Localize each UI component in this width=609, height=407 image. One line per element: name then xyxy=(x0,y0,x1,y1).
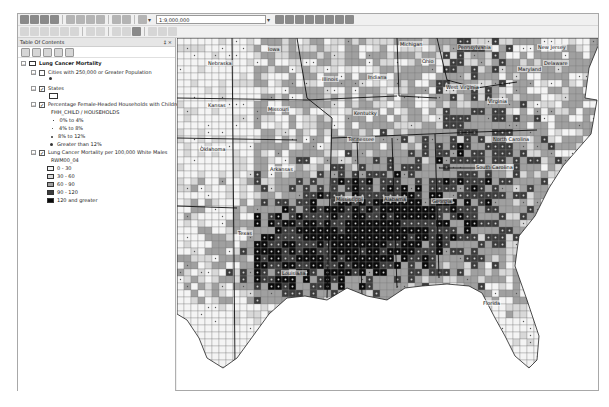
toolbar-separator xyxy=(134,15,135,24)
copy-icon[interactable] xyxy=(76,15,85,24)
clear-selection-icon[interactable] xyxy=(122,27,131,36)
pin-icon[interactable]: ‡ xyxy=(164,39,167,45)
checkbox-unchecked[interactable] xyxy=(39,70,45,76)
state-label: Louisiana xyxy=(281,270,307,276)
options-icon[interactable] xyxy=(65,48,74,57)
point-symbol-icon xyxy=(53,120,54,121)
legend-label: Greater than 12% xyxy=(57,141,102,148)
list-by-selection-icon[interactable] xyxy=(54,48,63,57)
collapse-icon[interactable]: − xyxy=(31,150,36,155)
catalog-window-icon[interactable] xyxy=(295,15,304,24)
point-symbol-icon xyxy=(52,128,53,129)
forward-extent-icon[interactable] xyxy=(96,27,105,36)
fixed-zoom-out-icon[interactable] xyxy=(70,27,79,36)
state-label: South Carolina xyxy=(475,164,514,170)
back-extent-icon[interactable] xyxy=(86,27,95,36)
standard-toolbar: ▾1:9,000,000▾ xyxy=(18,14,598,26)
model-builder-icon[interactable] xyxy=(335,15,344,24)
zoom-out-icon[interactable] xyxy=(30,27,39,36)
pan-icon[interactable] xyxy=(40,27,49,36)
measure-icon[interactable] xyxy=(168,27,177,36)
state-label: Kansas xyxy=(207,102,227,108)
toc-window-icon[interactable] xyxy=(285,15,294,24)
checkbox-checked[interactable]: ✓ xyxy=(39,150,45,156)
legend-item xyxy=(49,77,52,80)
find-icon[interactable] xyxy=(158,27,167,36)
legend-field-name: FHH_CHILD / HOUSEHOLDS xyxy=(51,109,119,116)
scale-dropdown-icon[interactable]: ▾ xyxy=(267,16,270,23)
list-by-visibility-icon[interactable] xyxy=(43,48,52,57)
toc-layer[interactable]: −✓Lung Cancer Mortality per 100,000 Whit… xyxy=(31,149,167,156)
legend-item: 0% to 4% xyxy=(49,117,84,124)
fixed-zoom-in-icon[interactable] xyxy=(60,27,69,36)
list-by-source-icon[interactable] xyxy=(32,48,41,57)
state-label: Delaware xyxy=(543,60,569,66)
open-icon[interactable] xyxy=(30,15,39,24)
legend-swatch xyxy=(47,182,54,187)
state-label: Alabama xyxy=(383,196,407,202)
state-label: Pennsylvania xyxy=(457,44,492,50)
checkbox-checked[interactable]: ✓ xyxy=(39,102,45,108)
print-icon[interactable] xyxy=(50,15,59,24)
zoom-in-icon[interactable] xyxy=(20,27,29,36)
collapse-icon[interactable]: − xyxy=(31,70,36,75)
legend-item: 60 - 90 xyxy=(47,181,75,188)
state-label: Michigan xyxy=(399,41,423,47)
python-window-icon[interactable] xyxy=(325,15,334,24)
state-label: West Virginia xyxy=(445,84,480,90)
whats-this-icon[interactable] xyxy=(345,15,354,24)
close-icon[interactable]: × xyxy=(168,39,172,45)
select-elements-icon[interactable] xyxy=(132,27,141,36)
state-label: Arkansas xyxy=(269,166,294,172)
toc-layer[interactable]: −✓States xyxy=(31,85,64,92)
collapse-icon[interactable]: − xyxy=(31,102,36,107)
full-extent-icon[interactable] xyxy=(50,27,59,36)
editor-toolbar-icon[interactable] xyxy=(275,15,284,24)
table-of-contents-panel: Table Of Contents ‡ × −Lung Cancer Morta… xyxy=(18,38,176,391)
toolbar-separator xyxy=(108,15,109,24)
legend-item: 90 - 120 xyxy=(47,189,78,196)
legend-field-name: RWM00_04 xyxy=(51,157,79,164)
save-icon[interactable] xyxy=(40,15,49,24)
legend-swatch xyxy=(47,174,54,179)
toc-toolbar xyxy=(18,47,175,58)
toc-group-lung-cancer[interactable]: −Lung Cancer Mortality xyxy=(21,60,102,67)
arctoolbox-icon[interactable] xyxy=(315,15,324,24)
legend-label: 0 - 30 xyxy=(57,165,72,172)
collapse-icon[interactable]: − xyxy=(21,61,26,66)
layer-name: States xyxy=(48,85,64,92)
collapse-icon[interactable]: − xyxy=(31,86,36,91)
identify-icon[interactable] xyxy=(148,27,157,36)
search-window-icon[interactable] xyxy=(305,15,314,24)
select-features-icon[interactable] xyxy=(112,27,121,36)
state-label: Georgia xyxy=(431,198,453,204)
redo-icon[interactable] xyxy=(122,15,131,24)
legend-item: 120 and greater xyxy=(47,197,97,204)
delete-icon[interactable] xyxy=(96,15,105,24)
arcmap-window: ▾1:9,000,000▾ Table Of Contents ‡ × −Lun… xyxy=(17,13,599,391)
legend-label: 60 - 90 xyxy=(57,181,75,188)
state-label: New Jersey xyxy=(537,44,567,50)
state-label: Maryland xyxy=(517,66,542,72)
paste-icon[interactable] xyxy=(86,15,95,24)
layer-name: Percentage Female-Headed Households with… xyxy=(48,101,182,108)
toc-layer[interactable]: −✓Percentage Female-Headed Households wi… xyxy=(31,101,182,108)
checkbox-checked[interactable]: ✓ xyxy=(39,86,45,92)
add-data-icon[interactable] xyxy=(138,15,147,24)
toolbar-separator xyxy=(82,27,83,36)
cut-icon[interactable] xyxy=(66,15,75,24)
state-label: Nebraska xyxy=(207,60,233,66)
legend-field: RWM00_04 xyxy=(51,157,79,164)
state-label: North Carolina xyxy=(492,136,530,142)
list-by-drawing-order-icon[interactable] xyxy=(21,48,30,57)
map-scale-input[interactable]: 1:9,000,000 xyxy=(156,15,266,24)
add-data-dropdown-icon[interactable]: ▾ xyxy=(148,16,151,23)
toc-layer[interactable]: −Cities with 250,000 or Greater Populati… xyxy=(31,69,152,76)
legend-item: 30 - 60 xyxy=(47,173,75,180)
point-symbol-icon xyxy=(49,77,52,80)
map-view[interactable]: NebraskaIowaMichiganPennsylvaniaNew Jers… xyxy=(177,38,598,390)
legend-item: 0 - 30 xyxy=(47,165,72,172)
county-choropleth-map[interactable] xyxy=(177,38,598,390)
new-document-icon[interactable] xyxy=(20,15,29,24)
undo-icon[interactable] xyxy=(112,15,121,24)
